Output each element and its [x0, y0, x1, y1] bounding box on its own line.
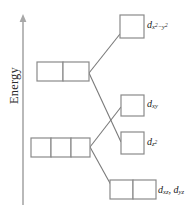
orbital-cell: [120, 15, 144, 38]
level-box-dxz-dyz: [110, 180, 156, 199]
diagram-canvas: [0, 0, 196, 212]
connector-left-upper-to-dz2: [89, 73, 121, 142]
orbital-cell: [121, 95, 144, 116]
orbital-cell: [63, 62, 89, 81]
orbital-label-dz2: dz2: [147, 137, 157, 148]
connector-left-lower-to-dxz-dyz: [90, 147, 111, 185]
level-box-dz2: [121, 132, 144, 154]
orbital-label-dx2-y2: dx2−y2: [147, 20, 168, 31]
orbital-label-dxz-dyz: dxz, dyz: [158, 185, 184, 196]
orbital-cell: [71, 138, 90, 157]
connector-left-upper-to-dx2y2: [89, 34, 120, 73]
orbital-splitting-diagram: Energy dx2−y2 dxy dz2 dxz, dyz: [0, 0, 196, 212]
orbital-cell: [51, 138, 71, 157]
orbital-cell: [110, 180, 133, 199]
orbital-cell: [121, 132, 144, 154]
level-box-dx2-y2: [120, 15, 144, 38]
connector-lines: [89, 34, 121, 185]
level-box-left-upper: [37, 62, 89, 81]
level-box-left-lower: [31, 138, 90, 157]
level-box-dxy: [121, 95, 144, 116]
energy-axis-label: Energy: [7, 58, 22, 114]
orbital-cell: [133, 180, 156, 199]
orbital-label-dxy: dxy: [147, 99, 158, 110]
connector-left-lower-to-dxy: [90, 107, 121, 147]
up-arrow-icon: [20, 14, 27, 22]
orbital-cell: [31, 138, 51, 157]
orbital-cell: [37, 62, 63, 81]
